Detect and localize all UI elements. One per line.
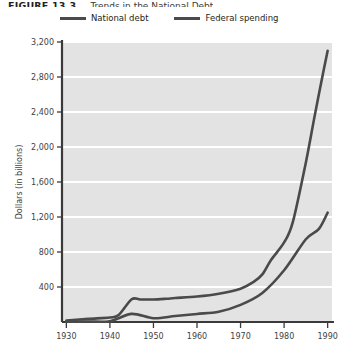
x-tick-label: 1950	[143, 332, 163, 341]
legend-label: Federal spending	[205, 14, 278, 23]
x-tick-label: 1970	[230, 332, 250, 341]
figure-number: FIGURE 13.3	[8, 0, 76, 7]
y-tick-label: 400	[39, 283, 54, 292]
y-tick-label: 1,600	[31, 178, 54, 187]
x-tick-label: 1930	[56, 332, 76, 341]
figure-title: FIGURE 13.3 Trends in the National Debt	[8, 0, 213, 7]
y-tick-label: 1,200	[31, 213, 54, 222]
x-tick-label: 1940	[100, 332, 120, 341]
legend-swatch-icon	[174, 17, 200, 20]
legend-item-national-debt: National debt	[60, 14, 148, 23]
x-tick-label: 1990	[317, 332, 337, 341]
chart-legend: National debt Federal spending	[60, 14, 279, 23]
y-tick-label: 2,000	[31, 143, 54, 152]
x-tick-label: 1980	[274, 332, 294, 341]
legend-item-federal-spending: Federal spending	[174, 14, 278, 23]
x-axis-ticks: 1930194019501960197019801990	[56, 322, 338, 341]
y-axis-ticks: 4008001,2001,6002,0002,4002,8003,200	[31, 38, 62, 292]
x-tick-label: 1960	[187, 332, 207, 341]
y-tick-label: 2,400	[31, 108, 54, 117]
chart-svg: 4008001,2001,6002,0002,4002,8003,200 193…	[0, 30, 356, 357]
line-chart: 4008001,2001,6002,0002,4002,8003,200 193…	[0, 30, 356, 357]
y-tick-label: 2,800	[31, 73, 54, 82]
y-tick-label: 3,200	[31, 38, 54, 47]
y-tick-label: 800	[39, 248, 54, 257]
legend-label: National debt	[91, 14, 148, 23]
legend-swatch-icon	[60, 17, 86, 20]
y-axis-title: Dollars (in billions)	[15, 145, 24, 220]
figure-caption: Trends in the National Debt	[90, 1, 213, 7]
